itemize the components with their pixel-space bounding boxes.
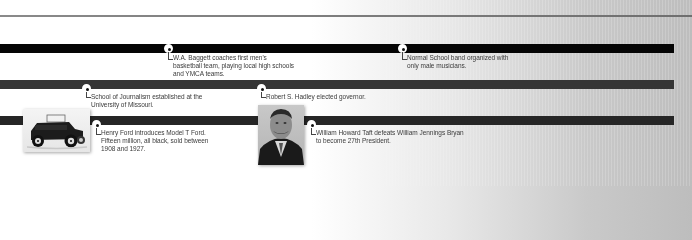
car-icon (23, 109, 90, 152)
event-taft-president: William Howard Taft defeats William Jenn… (316, 129, 466, 145)
top-divider-line (0, 15, 692, 17)
event-school-of-journalism: School of Journalism established at the … (91, 93, 205, 109)
model-t-ford-photo (23, 109, 90, 152)
portrait-icon (258, 105, 304, 165)
taft-portrait-photo (258, 105, 304, 165)
timeline-track-2 (0, 80, 674, 89)
event-hadley-governor: Robert S. Hadley elected governor. (266, 93, 407, 101)
timeline-track-3 (0, 116, 674, 125)
timeline-track-1 (0, 44, 674, 53)
event-baggett-basketball: W.A. Baggett coaches first men's basketb… (173, 54, 296, 79)
event-normal-school-band: Normal School band organized with only m… (407, 54, 513, 70)
event-model-t-ford: Henry Ford introduces Model T Ford. Fift… (101, 129, 220, 154)
